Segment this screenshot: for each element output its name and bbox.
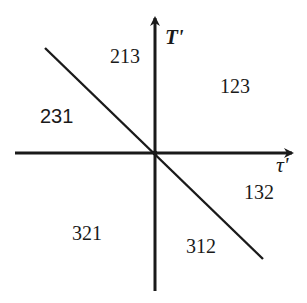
origin-point xyxy=(153,151,158,156)
diagram-canvas: T' τ' 213 123 231 132 321 312 xyxy=(0,0,307,303)
region-label-231: 231 xyxy=(40,105,73,127)
region-label-132: 132 xyxy=(244,181,274,203)
horizontal-axis-label: τ' xyxy=(276,152,289,177)
region-label-312: 312 xyxy=(186,235,216,257)
region-label-123: 123 xyxy=(220,75,250,97)
region-label-213: 213 xyxy=(110,45,140,67)
permutation-region-diagram: T' τ' 213 123 231 132 321 312 xyxy=(0,0,307,303)
region-label-321: 321 xyxy=(72,222,102,244)
vertical-axis-label: T' xyxy=(165,25,184,49)
